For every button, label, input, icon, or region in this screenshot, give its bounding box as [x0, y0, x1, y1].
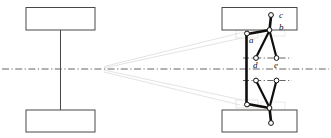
joint-label-c: c [279, 10, 283, 20]
centerlines-group [2, 58, 329, 81]
wheel-upper-left [26, 8, 95, 31]
suspension-diagram: c b a d e [0, 0, 331, 138]
joint-label-d: d [253, 60, 258, 70]
right-suspension-view [222, 8, 297, 133]
joint-lower-a [245, 102, 250, 107]
link-b-to-e [270, 31, 277, 58]
joint-lower-c [269, 121, 274, 126]
wheel-lower-right [222, 110, 297, 132]
wheel-lower-left [26, 110, 95, 132]
left-axle-view [26, 8, 95, 133]
joint-b [267, 28, 272, 33]
figure-canvas: c b a d e [0, 0, 331, 138]
joint-lower-b [267, 106, 272, 111]
joint-label-e: e [274, 60, 278, 70]
link-lower-right-strut [270, 81, 277, 108]
joint-lower-e [274, 78, 279, 83]
perspective-guide-upper [104, 33, 240, 67]
wheel-upper-right [222, 8, 297, 31]
perspective-guide-lower-2 [104, 70, 242, 100]
joint-c [269, 13, 274, 18]
joint-label-a: a [249, 35, 254, 45]
joint-label-b: b [279, 22, 284, 32]
joint-lower-d [254, 78, 259, 83]
perspective-guide-upper-2 [104, 38, 242, 68]
perspective-guide-lower [104, 72, 240, 105]
